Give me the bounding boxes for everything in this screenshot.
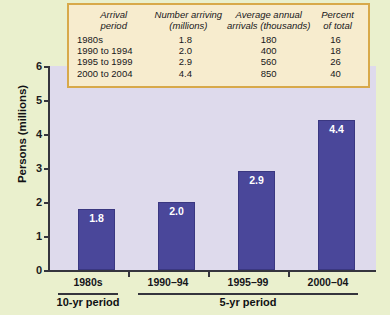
plot-area: 1.8 2.0 2.9 4.4 (48, 66, 376, 272)
cell-average: 400 (224, 45, 313, 56)
y-tick-label-1: 1 (26, 231, 42, 242)
cell-period: 1990 to 1994 (75, 45, 152, 56)
y-tick-label-4: 4 (26, 129, 42, 140)
table-header: Arrival period Number arriving (millions… (75, 10, 362, 34)
y-tick-label-3: 3 (26, 163, 42, 174)
table-row: 1980s 1.8 180 16 (75, 34, 362, 45)
x-tick-label-1980s: 1980s (48, 276, 128, 288)
bar-2000-04[interactable]: 4.4 (318, 120, 355, 270)
y-tick-label-5: 5 (26, 95, 42, 106)
cell-average: 560 (224, 56, 313, 67)
cell-number: 4.4 (152, 68, 224, 79)
arrivals-table: Arrival period Number arriving (millions… (75, 10, 362, 79)
table-col-header-percent: Percent of total (313, 10, 362, 34)
chart-figure: Persons (millions) 6 5 4 3 2 1 0 1.8 2.0… (0, 0, 390, 315)
group-label-10yr: 10-yr period (48, 296, 128, 308)
table-col-header-number: Number arriving (millions) (152, 10, 224, 34)
cell-period: 1995 to 1999 (75, 56, 152, 67)
cell-average: 180 (224, 34, 313, 45)
cell-percent: 16 (313, 34, 362, 45)
cell-percent: 40 (313, 68, 362, 79)
group-rule-10yr (58, 293, 118, 295)
cell-number: 2.9 (152, 56, 224, 67)
y-tick-label-6: 6 (26, 61, 42, 72)
x-tick-label-1995-99: 1995–99 (208, 276, 288, 288)
table-row: 1995 to 1999 2.9 560 26 (75, 56, 362, 67)
cell-number: 2.0 (152, 45, 224, 56)
table-row: 1990 to 1994 2.0 400 18 (75, 45, 362, 56)
group-label-5yr: 5-yr period (138, 296, 358, 308)
data-table: Arrival period Number arriving (millions… (67, 3, 370, 88)
cell-period: 1980s (75, 34, 152, 45)
x-tick-label-2000-04: 2000–04 (288, 276, 368, 288)
cell-period: 2000 to 2004 (75, 68, 152, 79)
x-tick-label-1990-94: 1990–94 (128, 276, 208, 288)
bar-1980s[interactable]: 1.8 (78, 209, 115, 270)
cell-average: 850 (224, 68, 313, 79)
cell-percent: 26 (313, 56, 362, 67)
cell-number: 1.8 (152, 34, 224, 45)
table-row: 2000 to 2004 4.4 850 40 (75, 68, 362, 79)
cell-percent: 18 (313, 45, 362, 56)
y-tick-label-0: 0 (26, 265, 42, 276)
table-col-header-average: Average annual arrivals (thousands) (224, 10, 313, 34)
y-axis-title: Persons (millions) (16, 54, 28, 214)
y-tick-label-2: 2 (26, 197, 42, 208)
group-rule-5yr (138, 293, 358, 295)
table-body: 1980s 1.8 180 16 1990 to 1994 2.0 400 18… (75, 34, 362, 79)
table-col-header-period: Arrival period (75, 10, 152, 34)
table-header-row: Arrival period Number arriving (millions… (75, 10, 362, 34)
bar-1990-94[interactable]: 2.0 (158, 202, 195, 270)
bar-1995-99[interactable]: 2.9 (238, 171, 275, 270)
